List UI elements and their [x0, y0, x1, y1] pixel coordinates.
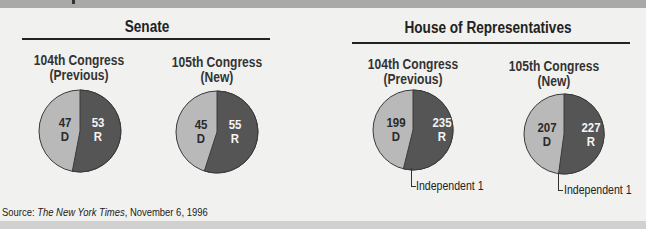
senate-104-r-label: 53 R [87, 116, 108, 144]
source-publication: The New York Times [37, 206, 124, 218]
house-104-d-label: 199 D [383, 116, 409, 144]
senate-104-pie [37, 88, 123, 174]
source-date: , November 6, 1996 [125, 206, 208, 218]
title-line2: (New) [157, 70, 277, 85]
title-line2: (New) [494, 74, 614, 89]
top-band [0, 0, 646, 8]
senate-rule [22, 38, 270, 40]
senate-104-d-label: 47 D [54, 116, 75, 144]
title-line1: 104th Congress [353, 57, 473, 72]
senate-105-title: 105th Congress (New) [157, 55, 277, 85]
source-note: Source: The New York Times, November 6, … [2, 206, 208, 218]
house-rule [352, 42, 630, 44]
house-105-r-label: 227 R [578, 121, 604, 149]
house-105-independent-label: Independent 1 [564, 183, 632, 197]
title-line1: 105th Congress [157, 55, 277, 70]
house-105-independent-leader [558, 173, 563, 191]
house-104-r-label: 235 R [429, 116, 455, 144]
house-104-independent-label: Independent 1 [416, 179, 484, 193]
senate-104-title: 104th Congress (Previous) [19, 53, 139, 83]
senate-105-r-label: 55 R [224, 118, 245, 146]
source-prefix: Source: [2, 206, 35, 218]
senate-105-d-label: 45 D [190, 118, 211, 146]
house-title: House of Representatives [395, 19, 582, 37]
title-line1: 105th Congress [494, 59, 614, 74]
title-line2: (Previous) [353, 72, 473, 87]
house-105-d-label: 207 D [534, 121, 560, 149]
senate-105-pie [174, 89, 260, 175]
house-105-title: 105th Congress (New) [494, 59, 614, 89]
senate-title: Senate [105, 18, 190, 36]
house-104-title: 104th Congress (Previous) [353, 57, 473, 87]
band-tick [72, 0, 75, 4]
bottom-band [0, 221, 646, 229]
title-line1: 104th Congress [19, 53, 139, 68]
title-line2: (Previous) [19, 68, 139, 83]
